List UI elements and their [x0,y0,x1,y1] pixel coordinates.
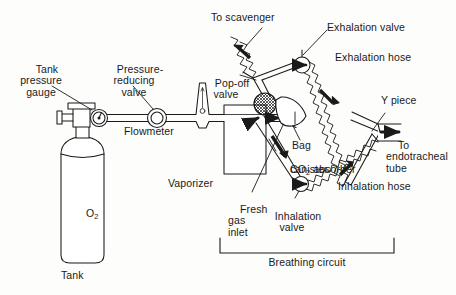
label-inhalation-hose: Inhalation hose [338,181,411,193]
label-fresh-gas-inlet: Fresh gas inlet [228,192,267,250]
label-breathing-circuit: Breathing circuit [237,257,377,269]
label-flowmeter: Flowmeter [124,126,174,138]
label-tank: Tank [61,270,84,282]
flow-arrow-exhalation-hose [320,90,333,103]
pop-off-valve-mesh [254,93,276,115]
tank-pressure-gauge-dial [91,110,108,127]
label-to-scavenger: To scavenger [211,12,275,24]
vaporizer-body [224,105,266,174]
label-exhalation-hose: Exhalation hose [335,52,411,64]
pipe-regulator-to-flowmeter [166,115,189,122]
reservoir-bag-body [276,97,306,126]
label-exhalation-valve: Exhalation valve [327,22,405,34]
label-pop-off-valve: Pop-off valve [200,66,252,112]
label-pressure-reducing-valve: Pressure- reducing valve [98,52,170,110]
pipe-flowmeter-to-vaporizer [218,115,224,122]
label-inhalation-valve: Inhalation valve [259,199,325,245]
label-to-endotracheal-tube: To endotracheal tube [386,128,456,186]
label-y-piece: Y piece [381,95,417,107]
exhalation-valve-body [294,50,310,73]
label-vaporizer: Vaporizer [168,178,213,190]
tank-neck [76,126,89,138]
label-bag: Bag [292,140,311,152]
limb-tee-to-exhalation-valve [253,63,294,80]
label-tank-pressure-gauge: Tank pressure gauge [6,52,76,110]
subscript-2: 2 [94,212,98,221]
label-co2-absorber-line2: canister [290,164,328,176]
label-tank-contents-o2: O2 [74,196,99,234]
anesthesia-circuit-diagram: Tank pressure gauge Pressure- reducing v… [0,0,456,295]
pipe-gauge-to-regulator [107,115,148,122]
